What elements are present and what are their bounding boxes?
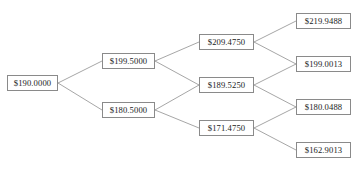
tree-node-n1d: $180.5000	[102, 102, 155, 118]
tree-edge-n2dd-to-n3d	[254, 128, 296, 150]
tree-node-n3a: $219.9488	[296, 13, 351, 29]
tree-node-n2dd: $171.4750	[199, 120, 254, 136]
tree-edge-n2uu-to-n3b	[254, 42, 296, 64]
tree-edge-n2ud-to-n3b	[254, 64, 296, 85]
tree-edge-n1d-to-n2dd	[155, 110, 199, 128]
tree-node-n3d: $162.9013	[296, 142, 351, 158]
tree-node-n3c: $180.0488	[296, 99, 351, 115]
tree-edge-n2ud-to-n3c	[254, 85, 296, 107]
tree-edge-n2uu-to-n3a	[254, 21, 296, 42]
tree-edge-n1d-to-n2ud	[155, 85, 199, 110]
tree-node-n2uu: $209.4750	[199, 34, 254, 50]
binomial-tree-diagram: $190.0000$199.5000$180.5000$209.4750$189…	[0, 0, 353, 170]
clipped-header-text	[2, 0, 322, 3]
tree-node-n1u: $199.5000	[102, 53, 155, 69]
tree-edge-n2dd-to-n3c	[254, 107, 296, 128]
tree-node-n3b: $199.0013	[296, 56, 351, 72]
tree-edge-n1u-to-n2uu	[155, 42, 199, 61]
tree-edge-n0-to-n1u	[58, 61, 102, 83]
tree-node-n2ud: $189.5250	[199, 77, 254, 93]
tree-node-n0: $190.0000	[7, 75, 58, 91]
tree-edge-n1u-to-n2ud	[155, 61, 199, 85]
tree-edge-n0-to-n1d	[58, 83, 102, 110]
